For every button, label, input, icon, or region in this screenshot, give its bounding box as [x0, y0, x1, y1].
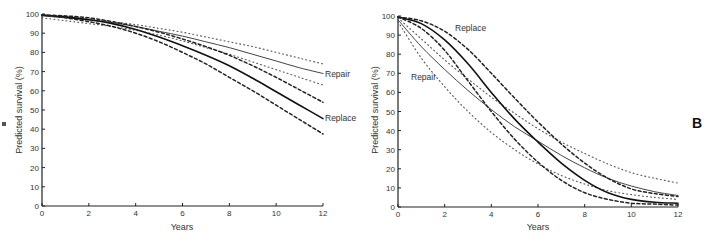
- y-axis-title-a: Predicted survival (%): [14, 66, 24, 154]
- x-tick-label: 2: [87, 209, 92, 218]
- y-tick-label: 60: [386, 88, 395, 97]
- x-tick-label: 10: [627, 210, 636, 219]
- y-tick-label: 80: [386, 50, 395, 59]
- y-tick-label: 90: [386, 31, 395, 40]
- x-tick-label: 8: [227, 209, 232, 218]
- series-group-b: [398, 17, 678, 205]
- series-line-replace-upper-ci: [398, 17, 678, 197]
- y-tick-label: 20: [386, 165, 395, 174]
- y-tick-label: 80: [30, 48, 39, 57]
- series-line-repair: [42, 16, 323, 74]
- series-label-replace-b: Replace: [455, 23, 486, 33]
- series-line-repair-lower-ci: [398, 22, 678, 200]
- y-tick-label: 70: [386, 69, 395, 78]
- x-tick-label: 0: [40, 209, 45, 218]
- chart-panel-b: 0102030405060708090100024681012 Predicte…: [370, 12, 702, 232]
- x-tick-label: 10: [272, 209, 281, 218]
- y-tick-label: 30: [386, 146, 395, 155]
- x-tick-label: 4: [489, 210, 494, 219]
- y-tick-label: 100: [26, 10, 40, 19]
- x-tick-label: 6: [536, 210, 541, 219]
- y-tick-label: 90: [30, 29, 39, 38]
- series-line-repair-upper-ci: [42, 16, 323, 64]
- y-tick-label: 50: [386, 108, 395, 117]
- x-tick-label: 2: [442, 210, 447, 219]
- y-tick-label: 40: [30, 125, 39, 134]
- axes-a: 0102030405060708090100024681012: [26, 10, 328, 218]
- y-tick-label: 40: [386, 127, 395, 136]
- cropped-panel-marker: [2, 122, 6, 126]
- x-tick-label: 6: [180, 209, 185, 218]
- x-axis-title-a: Years: [171, 222, 194, 232]
- figure: 0102030405060708090100024681012 Predicte…: [0, 0, 722, 241]
- series-group-a: [42, 15, 323, 134]
- series-line-replace-upper-ci: [42, 15, 323, 102]
- series-line-replace-lower-ci: [398, 17, 678, 205]
- x-tick-label: 12: [674, 210, 683, 219]
- series-line-replace: [42, 15, 323, 119]
- y-tick-label: 30: [30, 144, 39, 153]
- y-tick-label: 20: [30, 164, 39, 173]
- x-axis-title-b: Years: [527, 222, 550, 232]
- y-tick-label: 60: [30, 87, 39, 96]
- series-label-replace-a: Replace: [325, 113, 356, 123]
- y-tick-label: 50: [30, 106, 39, 115]
- y-axis-title-b: Predicted survival (%): [370, 66, 380, 154]
- x-tick-label: 0: [396, 210, 401, 219]
- y-tick-label: 70: [30, 68, 39, 77]
- series-line-repair-lower-ci: [42, 18, 323, 85]
- series-line-replace-lower-ci: [42, 15, 323, 134]
- x-tick-label: 12: [319, 209, 328, 218]
- series-label-repair-b: Repair: [411, 72, 436, 82]
- x-tick-label: 8: [582, 210, 587, 219]
- series-line-repair-upper-ci: [398, 18, 678, 183]
- panel-letter-b: B: [692, 115, 702, 131]
- series-label-repair-a: Repair: [325, 69, 350, 79]
- y-tick-label: 10: [386, 184, 395, 193]
- chart-panel-a: 0102030405060708090100024681012 Predicte…: [14, 10, 356, 232]
- y-tick-label: 10: [30, 183, 39, 192]
- y-tick-label: 100: [382, 12, 396, 21]
- x-tick-label: 4: [133, 209, 138, 218]
